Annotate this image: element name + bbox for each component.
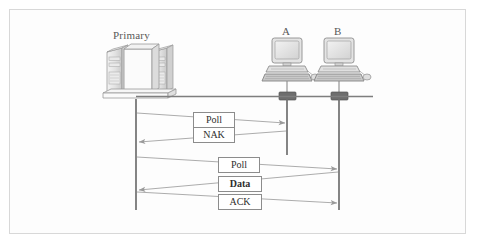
workstation-b-icon xyxy=(314,38,371,100)
message-label-poll-a: Poll xyxy=(193,112,235,128)
node-label-a: A xyxy=(282,25,290,37)
node-label-b: B xyxy=(334,25,342,37)
message-label-nak: NAK xyxy=(193,127,235,143)
workstation-a-icon xyxy=(262,38,319,100)
node-label-primary: Primary xyxy=(113,29,150,41)
message-label-data: Data xyxy=(218,176,262,192)
message-label-poll-b: Poll xyxy=(218,157,260,173)
message-label-ack: ACK xyxy=(218,194,262,210)
primary-server-icon xyxy=(103,44,176,98)
polling-protocol-diagram: Primary A B Poll NAK Poll Data ACK xyxy=(0,0,477,245)
